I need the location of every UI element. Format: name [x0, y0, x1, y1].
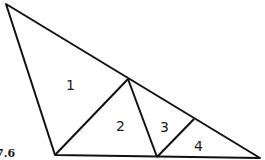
region-label-2: 2 — [116, 118, 125, 134]
region-label-3: 3 — [160, 119, 169, 135]
region-label-1: 1 — [66, 77, 75, 93]
figure-number: 7.6 — [0, 147, 15, 160]
region-label-4: 4 — [194, 138, 203, 154]
segment-b — [128, 79, 157, 157]
triangle-diagram: 1 2 3 4 7.6 — [0, 0, 265, 160]
outer-triangle — [6, 4, 260, 158]
